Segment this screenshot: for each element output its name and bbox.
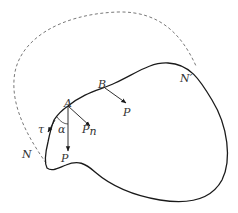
label-point-n: N [21, 148, 32, 161]
tangent-arrow-a [48, 120, 55, 132]
label-tangent: τ [38, 123, 45, 136]
label-point-b: B [97, 78, 106, 91]
label-angle-alpha: α [58, 123, 66, 136]
label-point-a: A [63, 97, 72, 110]
label-point-n-prime: N′ [179, 72, 193, 85]
label-force-a: P [60, 152, 69, 165]
diagram-canvas: A B N N′ P P Pn τ α [0, 0, 238, 213]
force-arrow-b [105, 88, 126, 103]
body-outline [45, 63, 227, 202]
label-force-b: P [122, 106, 131, 119]
label-normal-component: Pn [81, 123, 97, 138]
